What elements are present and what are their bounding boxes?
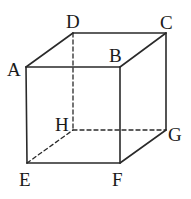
edge-AE: [26, 67, 27, 163]
vertex-label-H: H: [55, 114, 69, 135]
vertex-label-G: G: [168, 124, 182, 145]
vertex-label-B: B: [109, 45, 122, 66]
vertex-label-D: D: [66, 11, 80, 32]
edge-FG: [120, 130, 166, 163]
vertex-label-A: A: [7, 59, 21, 80]
edge-DA: [26, 33, 73, 67]
vertex-label-E: E: [19, 169, 31, 190]
vertex-label-C: C: [160, 12, 173, 33]
vertex-label-F: F: [112, 169, 123, 190]
edge-BC: [120, 33, 166, 67]
cube-diagram: A D B C H G E F: [0, 0, 191, 199]
